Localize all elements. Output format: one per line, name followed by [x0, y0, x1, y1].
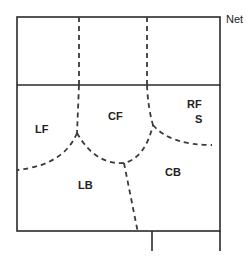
boundary-lf-cf	[77, 85, 79, 133]
boundary-cf-rf	[147, 85, 153, 125]
boundary-lb-cb	[124, 163, 138, 233]
zone-label-lb: LB	[78, 179, 93, 191]
net-label: Net	[226, 13, 243, 25]
zone-label-cb: CB	[165, 166, 181, 178]
court-diagram: Net LF CF RF S LB CB	[0, 0, 249, 263]
boundary-lf-lb	[17, 133, 77, 170]
zone-label-cf: CF	[108, 110, 123, 122]
zone-label-s: S	[195, 113, 202, 125]
zone-label-lf: LF	[35, 123, 49, 135]
boundary-rf-cb	[153, 125, 212, 145]
boundary-cf-back	[77, 125, 153, 163]
zone-label-rf: RF	[187, 98, 202, 110]
